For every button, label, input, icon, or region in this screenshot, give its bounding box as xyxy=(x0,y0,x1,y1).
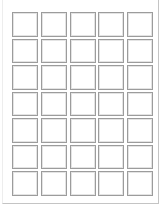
label-cell-r3-c4 xyxy=(98,65,124,90)
label-sheet-page xyxy=(2,0,159,204)
label-cell-r5-c5 xyxy=(127,118,153,143)
label-cell-r5-c1 xyxy=(12,118,38,143)
label-cell-r1-c1 xyxy=(12,12,38,37)
label-cell-r5-c2 xyxy=(41,118,67,143)
label-cell-r4-c3 xyxy=(70,92,96,117)
label-cell-r7-c5 xyxy=(127,171,153,196)
label-cell-r1-c2 xyxy=(41,12,67,37)
label-cell-r6-c5 xyxy=(127,145,153,170)
label-cell-r5-c4 xyxy=(98,118,124,143)
label-cell-r2-c2 xyxy=(41,39,67,64)
label-cell-r2-c4 xyxy=(98,39,124,64)
label-cell-r2-c3 xyxy=(70,39,96,64)
label-cell-r7-c4 xyxy=(98,171,124,196)
label-cell-r7-c1 xyxy=(12,171,38,196)
label-grid xyxy=(12,12,153,196)
label-cell-r5-c3 xyxy=(70,118,96,143)
label-cell-r3-c1 xyxy=(12,65,38,90)
label-cell-r6-c4 xyxy=(98,145,124,170)
label-cell-r1-c4 xyxy=(98,12,124,37)
label-cell-r2-c1 xyxy=(12,39,38,64)
label-cell-r7-c3 xyxy=(70,171,96,196)
label-cell-r4-c5 xyxy=(127,92,153,117)
label-cell-r6-c2 xyxy=(41,145,67,170)
label-cell-r2-c5 xyxy=(127,39,153,64)
label-cell-r6-c3 xyxy=(70,145,96,170)
label-cell-r1-c3 xyxy=(70,12,96,37)
label-cell-r6-c1 xyxy=(12,145,38,170)
label-cell-r4-c2 xyxy=(41,92,67,117)
label-cell-r1-c5 xyxy=(127,12,153,37)
label-cell-r4-c1 xyxy=(12,92,38,117)
label-cell-r4-c4 xyxy=(98,92,124,117)
label-cell-r7-c2 xyxy=(41,171,67,196)
label-cell-r3-c5 xyxy=(127,65,153,90)
label-cell-r3-c2 xyxy=(41,65,67,90)
label-cell-r3-c3 xyxy=(70,65,96,90)
